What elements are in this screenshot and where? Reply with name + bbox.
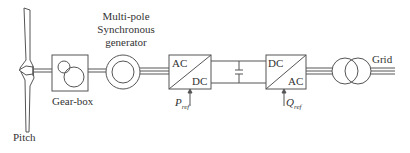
rectifier-dc-label: DC	[192, 75, 207, 88]
qref-label: Qref	[286, 96, 301, 114]
gearbox-icon	[52, 55, 88, 91]
grid-label: Grid	[372, 53, 392, 66]
three-phase-line-inverter	[306, 68, 332, 74]
pref-symbol: P	[175, 96, 182, 108]
inverter-dc-label: DC	[268, 57, 283, 70]
qref-subscript: ref	[294, 103, 302, 111]
pitch-label: Pitch	[13, 131, 36, 144]
pref-subscript: ref	[182, 103, 190, 111]
generator-icon	[106, 55, 140, 89]
generator-label: Multi-pole Synchronous generator	[96, 10, 156, 49]
gearbox-label: Gear-box	[52, 95, 93, 108]
qref-symbol: Q	[286, 96, 294, 108]
generator-label-line1: Multi-pole	[96, 10, 156, 23]
high-speed-shaft	[88, 69, 106, 72]
three-phase-line-generator	[140, 68, 169, 74]
grid-line	[371, 68, 395, 74]
rectifier-ac-label: AC	[172, 57, 187, 70]
generator-label-line2: Synchronous	[96, 23, 156, 36]
transformer-icon	[332, 58, 371, 84]
inverter-ac-label: AC	[288, 75, 303, 88]
turbine-blade-icon	[19, 8, 34, 132]
generator-label-line3: generator	[96, 36, 156, 49]
pref-label: Pref	[175, 96, 189, 114]
low-speed-shaft	[33, 69, 52, 72]
dc-link	[211, 61, 266, 83]
